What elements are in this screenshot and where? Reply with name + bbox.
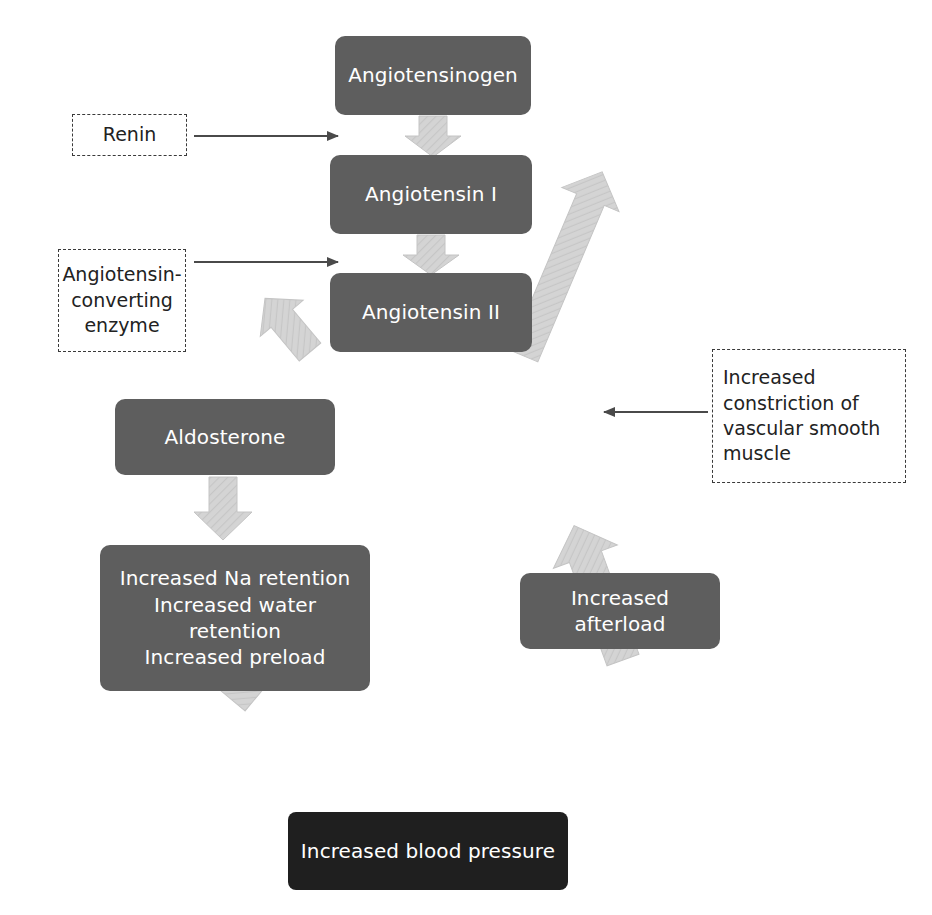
annotation-ace[interactable]: Angiotensin- converting enzyme <box>58 249 186 352</box>
node-increased-afterload[interactable]: Increased afterload <box>520 573 720 649</box>
node-increased-blood-pressure[interactable]: Increased blood pressure <box>288 812 568 890</box>
block-arrow-aldosterone-to-preload <box>194 477 252 540</box>
annotation-vasoconstriction[interactable]: Increased constriction of vascular smoot… <box>712 349 906 483</box>
block-arrow-angiotensin-2-to-aldosterone <box>244 280 332 370</box>
node-angiotensin-2[interactable]: Angiotensin II <box>330 273 532 352</box>
block-arrow-angiotensinogen-to-angiotensin-1 <box>405 116 461 157</box>
annotation-renin[interactable]: Renin <box>72 114 187 156</box>
flowchart-canvas: Angiotensinogen Angiotensin I Angiotensi… <box>0 0 932 915</box>
node-aldosterone[interactable]: Aldosterone <box>115 399 335 475</box>
figure-caption <box>6 903 906 915</box>
block-arrow-angiotensin-1-to-angiotensin-2 <box>403 235 459 275</box>
node-angiotensinogen[interactable]: Angiotensinogen <box>335 36 531 115</box>
node-na-water-preload[interactable]: Increased Na retention Increased water r… <box>100 545 370 691</box>
node-angiotensin-1[interactable]: Angiotensin I <box>330 155 532 234</box>
